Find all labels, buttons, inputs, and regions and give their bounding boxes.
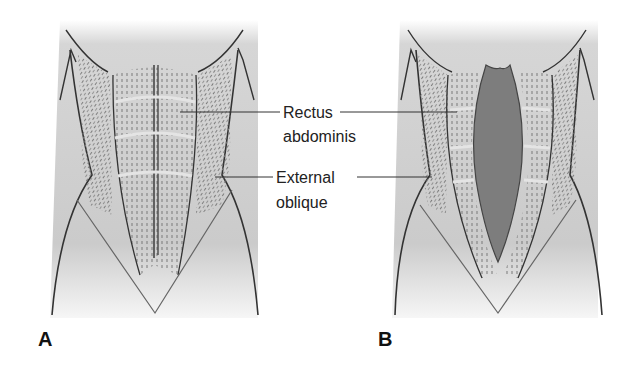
panel-b-torso: [392, 20, 602, 318]
panel-label-b: B: [378, 328, 392, 350]
panel-label-a: A: [38, 328, 52, 350]
panel-a-torso: [50, 20, 258, 318]
diagram-canvas: Rectus abdominis External oblique A B: [0, 0, 637, 365]
label-rectus-line2: abdominis: [283, 128, 356, 145]
label-oblique-line1: External: [276, 169, 335, 186]
label-oblique-line2: oblique: [276, 194, 328, 211]
label-rectus-line1: Rectus: [283, 104, 333, 121]
